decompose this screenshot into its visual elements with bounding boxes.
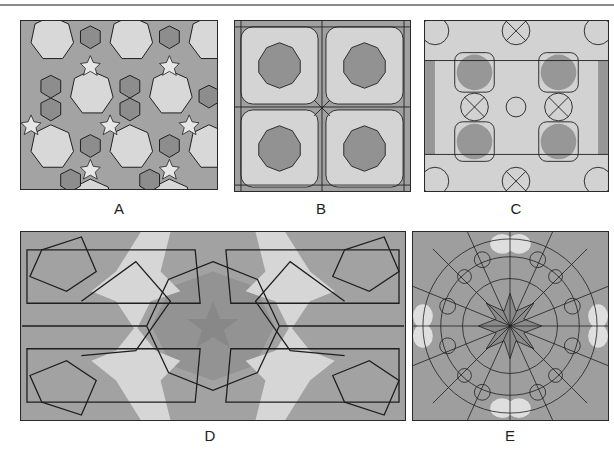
pattern-a-illustration [21,21,217,189]
panel-c-label: C [501,200,531,217]
panel-b-label: B [306,200,336,217]
panel-e [412,231,609,421]
panel-d [20,231,406,421]
pattern-e-illustration [413,232,608,420]
pattern-c-illustration [425,21,608,191]
panel-a-label: A [104,200,134,217]
panel-a [20,20,218,190]
pattern-d-illustration [21,232,405,420]
header-rule [0,4,614,6]
panel-c [424,20,609,192]
panel-b [234,20,411,192]
pattern-b-illustration [235,21,410,191]
panel-d-label: D [195,427,225,444]
panel-e-label: E [495,427,525,444]
